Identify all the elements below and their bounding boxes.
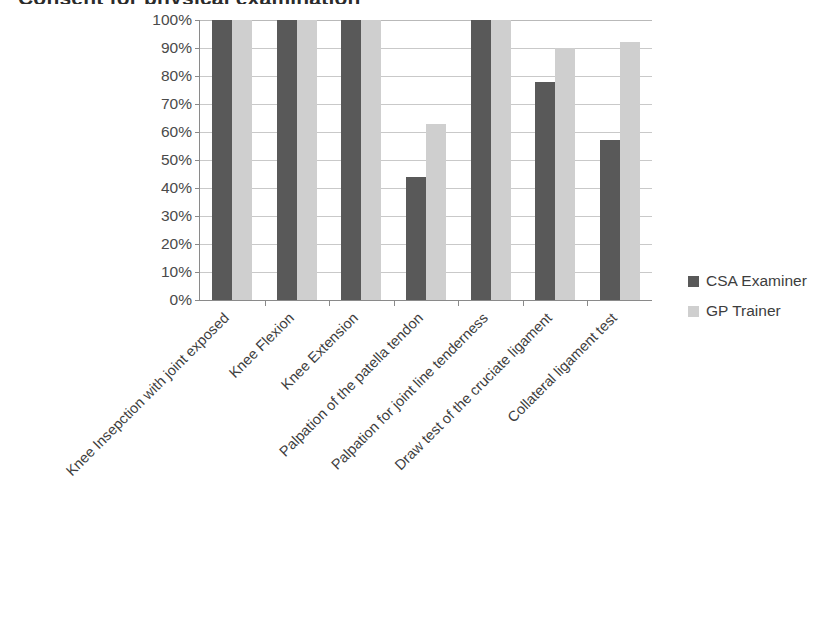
x-axis-tick (458, 300, 459, 306)
bar[interactable] (535, 82, 555, 300)
y-tick-label: 90% (120, 40, 192, 56)
y-tick-label: 30% (120, 208, 192, 224)
legend-label: GP Trainer (706, 302, 781, 320)
bar-group (535, 20, 575, 300)
x-tick-label: Draw test of the cruciate ligament (120, 310, 555, 620)
chart-title: Consent for physical examination (18, 0, 360, 4)
y-axis-tick (195, 244, 200, 245)
y-tick-label: 20% (120, 236, 192, 252)
y-tick-label: 50% (120, 152, 192, 168)
y-tick-label: 70% (120, 96, 192, 112)
bar[interactable] (555, 48, 575, 300)
y-tick-label: 0% (120, 292, 192, 308)
y-axis-tick (195, 48, 200, 49)
y-axis-tick (195, 132, 200, 133)
bar[interactable] (297, 20, 317, 300)
y-tick-label: 100% (120, 12, 192, 28)
x-axis-tick (265, 300, 266, 306)
y-tick-label: 60% (120, 124, 192, 140)
bar-group (277, 20, 317, 300)
bar[interactable] (426, 124, 446, 300)
bar-groups (200, 20, 652, 300)
legend-entry[interactable]: CSA Examiner (688, 266, 833, 296)
bar[interactable] (361, 20, 381, 300)
x-axis-tick (394, 300, 395, 306)
bar[interactable] (600, 140, 620, 300)
y-axis-tick (195, 76, 200, 77)
y-tick-label: 40% (120, 180, 192, 196)
x-tick-label: Collateral ligament test (185, 310, 620, 620)
x-tick-label: Palpation for joint line tenderness (56, 310, 491, 620)
bar[interactable] (471, 20, 491, 300)
bar[interactable] (491, 20, 511, 300)
y-axis-tick (195, 188, 200, 189)
legend-label: CSA Examiner (706, 272, 807, 290)
y-axis-tick (195, 160, 200, 161)
legend: CSA ExaminerGP Trainer (688, 266, 833, 326)
y-axis-tick (195, 216, 200, 217)
bar-group (471, 20, 511, 300)
bar[interactable] (277, 20, 297, 300)
y-axis-tick (195, 104, 200, 105)
bar[interactable] (406, 177, 426, 300)
plot-area (200, 20, 652, 300)
bar-group (341, 20, 381, 300)
y-tick-label: 80% (120, 68, 192, 84)
y-axis-tick (195, 300, 200, 301)
x-axis-line (200, 300, 652, 301)
y-axis-tick (195, 272, 200, 273)
bar-chart: Consent for physical examination 100%90%… (0, 0, 837, 620)
bar[interactable] (341, 20, 361, 300)
bar-group (212, 20, 252, 300)
x-axis-tick (523, 300, 524, 306)
x-axis-tick (329, 300, 330, 306)
x-axis-tick (587, 300, 588, 306)
y-axis: 100%90%80%70%60%50%40%30%20%10%0% (120, 12, 192, 308)
legend-entry[interactable]: GP Trainer (688, 296, 833, 326)
y-axis-tick (195, 20, 200, 21)
x-tick-label: Knee Extension (0, 310, 361, 620)
bar[interactable] (212, 20, 232, 300)
bar[interactable] (620, 42, 640, 300)
y-tick-label: 10% (120, 264, 192, 280)
legend-swatch-icon (688, 276, 699, 287)
bar-group (600, 20, 640, 300)
legend-swatch-icon (688, 306, 699, 317)
x-tick-label: Palpation of the patella tendon (0, 310, 426, 620)
x-tick-label: Knee Flexion (0, 310, 297, 620)
bar-group (406, 20, 446, 300)
x-tick-label: Knee Insepction with joint exposed (0, 310, 232, 620)
bar[interactable] (232, 20, 252, 300)
